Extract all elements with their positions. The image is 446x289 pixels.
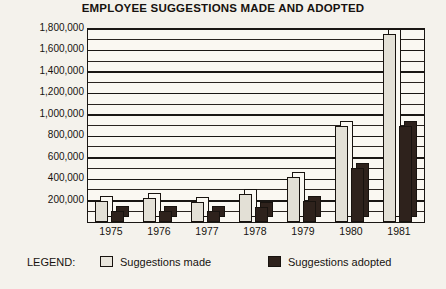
y-axis-tick-label: 800,000 bbox=[0, 130, 84, 140]
plot-frame bbox=[87, 28, 425, 223]
y-axis-tick-label: 1,200,000 bbox=[0, 87, 84, 97]
bar-adopted-1975[interactable] bbox=[111, 211, 124, 222]
y-axis-tick-label: 1,600,000 bbox=[0, 44, 84, 54]
x-axis-tick-label: 1975 bbox=[87, 225, 135, 237]
bar-group bbox=[376, 29, 424, 222]
legend-label-adopted: Suggestions adopted bbox=[288, 255, 391, 269]
x-axis-tick-label: 1979 bbox=[279, 225, 327, 237]
bar-made-1980[interactable] bbox=[335, 126, 348, 223]
x-axis-tick-label: 1978 bbox=[231, 225, 279, 237]
y-axis-tick-label: 400,000 bbox=[0, 173, 84, 183]
x-axis-labels: 1975197619771978197919801981 bbox=[87, 225, 425, 243]
legend-title: LEGEND: bbox=[27, 255, 75, 269]
bar-made-1975[interactable] bbox=[95, 201, 108, 222]
bar-group bbox=[136, 29, 184, 222]
chart-title: EMPLOYEE SUGGESTIONS MADE AND ADOPTED bbox=[0, 2, 446, 14]
y-axis-tick-label: 600,000 bbox=[0, 152, 84, 162]
legend-label-made: Suggestions made bbox=[120, 255, 211, 269]
bar-adopted-1978[interactable] bbox=[255, 207, 268, 222]
y-axis-tick-label: 200,000 bbox=[0, 195, 84, 205]
bar-made-1978[interactable] bbox=[239, 194, 252, 222]
bar-made-1979[interactable] bbox=[287, 177, 300, 222]
bar-group bbox=[328, 29, 376, 222]
bar-adopted-1977[interactable] bbox=[207, 211, 220, 222]
bars-layer bbox=[88, 29, 424, 222]
x-axis-tick-label: 1977 bbox=[183, 225, 231, 237]
bar-group bbox=[88, 29, 136, 222]
chart-legend: LEGEND: Suggestions made Suggestions ado… bbox=[0, 252, 446, 274]
y-axis-tick-label: 1,400,000 bbox=[0, 66, 84, 76]
y-axis-tick-label: 1,000,000 bbox=[0, 109, 84, 119]
bar-group bbox=[280, 29, 328, 222]
bar-group bbox=[184, 29, 232, 222]
bar-adopted-1980[interactable] bbox=[351, 168, 364, 222]
bar-adopted-1979[interactable] bbox=[303, 201, 316, 222]
legend-swatch-made bbox=[100, 256, 113, 267]
chart-plot-area: 1,800,0001,600,0001,400,0001,200,0001,00… bbox=[0, 22, 446, 234]
y-axis-tick-label: 1,800,000 bbox=[0, 23, 84, 33]
bar-adopted-1981[interactable] bbox=[399, 126, 412, 223]
bar-made-1977[interactable] bbox=[191, 202, 204, 222]
bar-group bbox=[232, 29, 280, 222]
legend-swatch-adopted bbox=[268, 256, 281, 267]
x-axis-tick-label: 1980 bbox=[327, 225, 375, 237]
bar-made-1981[interactable] bbox=[383, 34, 396, 222]
x-axis-tick-label: 1981 bbox=[375, 225, 423, 237]
bar-made-1976[interactable] bbox=[143, 198, 156, 222]
bar-adopted-1976[interactable] bbox=[159, 211, 172, 222]
x-axis-tick-label: 1976 bbox=[135, 225, 183, 237]
y-axis-labels: 1,800,0001,600,0001,400,0001,200,0001,00… bbox=[0, 22, 84, 234]
